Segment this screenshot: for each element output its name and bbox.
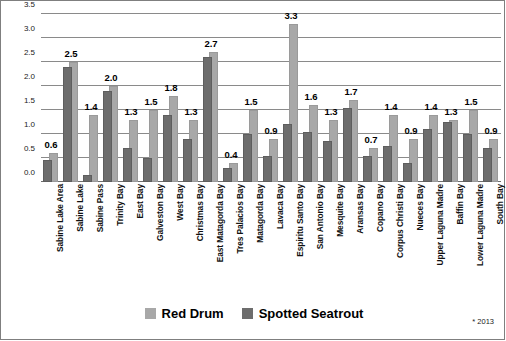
bar-value-label: 0.9 (257, 125, 285, 136)
bar-spotted-seatrout (363, 156, 372, 182)
x-axis-category-label: Corpus Christi Bay (395, 184, 405, 258)
legend-item-spotted-seatrout: Spotted Seatrout (242, 306, 364, 321)
bar-spotted-seatrout (423, 129, 432, 182)
bar-group: 0.6 (41, 14, 61, 182)
bar-group: 1.6 (301, 14, 321, 182)
x-axis-category-label: Baffin Bay (455, 184, 465, 224)
y-axis-tick-label: 2.0 (5, 72, 35, 81)
x-axis-category-label: Sabine Lake (75, 184, 85, 232)
bar-group: 1.5 (461, 14, 481, 182)
bar-spotted-seatrout (123, 148, 132, 182)
bar-value-label: 3.3 (277, 10, 305, 21)
x-axis-category-label: East Bay (135, 184, 145, 219)
x-axis-category-label: Lower Laguna Madre (475, 184, 485, 266)
bar-group: 2.5 (61, 14, 81, 182)
x-axis-category-label: Espiritu Santo Bay (295, 184, 305, 257)
y-axis-tick-label: 3.0 (5, 24, 35, 33)
bar-value-label: 1.3 (437, 106, 465, 117)
bar-spotted-seatrout (403, 163, 412, 182)
bar-groups: 0.62.51.42.01.31.51.81.32.70.41.50.93.31… (41, 14, 501, 182)
bar-group: 1.4 (81, 14, 101, 182)
bar-group: 2.0 (101, 14, 121, 182)
bar-group: 0.7 (361, 14, 381, 182)
bar-value-label: 0.6 (37, 139, 65, 150)
bar-value-label: 2.7 (197, 38, 225, 49)
y-axis-tick-label: 0.0 (5, 168, 35, 177)
bar-spotted-seatrout (383, 146, 392, 182)
bar-value-label: 1.4 (77, 101, 105, 112)
y-axis-tick-label: 1.0 (5, 120, 35, 129)
bar-red-drum (89, 115, 98, 182)
bar-spotted-seatrout (63, 67, 72, 182)
y-axis-tick-label: 3.5 (5, 0, 35, 9)
x-axis-category-label: Nueces Bay (415, 184, 425, 231)
bar-spotted-seatrout (83, 175, 92, 182)
bar-spotted-seatrout (263, 156, 272, 182)
bar-group: 1.4 (421, 14, 441, 182)
legend-item-red-drum: Red Drum (145, 306, 224, 321)
legend-swatch-spotted-seatrout (242, 308, 253, 319)
y-axis-tick-label: 1.5 (5, 96, 35, 105)
x-axis-category-label: San Antonio Bay (315, 184, 325, 249)
bar-spotted-seatrout (163, 115, 172, 182)
bar-spotted-seatrout (143, 158, 152, 182)
bar-value-label: 2.0 (97, 72, 125, 83)
bar-value-label: 0.7 (357, 134, 385, 145)
x-axis-category-label: Mesquite Bay (335, 184, 345, 237)
y-axis-tick-label: 2.5 (5, 48, 35, 57)
x-axis-category-label: Trinity Bay (115, 184, 125, 226)
x-axis-category-label: Aransas Bay (355, 184, 365, 234)
bar-spotted-seatrout (443, 122, 452, 182)
x-axis-category-labels: Sabine Lake AreaSabine LakeSabine PassTr… (41, 184, 501, 294)
legend-label-spotted-seatrout: Spotted Seatrout (259, 306, 364, 321)
y-axis-tick-label: 0.5 (5, 144, 35, 153)
x-axis-category-label: Copano Bay (375, 184, 385, 232)
x-axis-category-label: Sabine Lake Area (55, 184, 65, 252)
bar-spotted-seatrout (223, 168, 232, 182)
x-axis-category-label: Galveston Bay (155, 184, 165, 241)
bar-spotted-seatrout (183, 139, 192, 182)
bar-value-label: 1.5 (457, 96, 485, 107)
x-axis-category-label: Lavaca Bay (275, 184, 285, 229)
bar-value-label: 1.8 (157, 82, 185, 93)
bar-value-label: 1.5 (237, 96, 265, 107)
bar-spotted-seatrout (483, 148, 492, 182)
footnote-annotation: * 2013 (472, 317, 494, 326)
bar-value-label: 1.3 (177, 106, 205, 117)
x-axis-category-label: Sabine Pass (95, 184, 105, 232)
chart-legend: Red Drum Spotted Seatrout (1, 306, 506, 321)
bar-spotted-seatrout (463, 134, 472, 182)
x-axis-category-label: South Bay (495, 184, 505, 225)
chart-frame: 0.00.51.01.52.02.53.03.5 0.62.51.42.01.3… (0, 0, 505, 340)
bar-group: 1.4 (381, 14, 401, 182)
bar-value-label: 1.3 (117, 106, 145, 117)
bar-value-label: 1.5 (137, 96, 165, 107)
x-axis-category-label: East Matagorda Bay (215, 184, 225, 262)
bar-spotted-seatrout (343, 108, 352, 182)
bar-value-label: 0.9 (397, 125, 425, 136)
bar-value-label: 1.4 (377, 101, 405, 112)
x-axis-category-label: Tres Palacios Bay (235, 184, 245, 254)
bar-group: 1.7 (341, 14, 361, 182)
bar-group: 0.9 (401, 14, 421, 182)
legend-label-red-drum: Red Drum (162, 306, 224, 321)
plot-area: 0.00.51.01.52.02.53.03.5 0.62.51.42.01.3… (41, 14, 501, 182)
legend-swatch-red-drum (145, 308, 156, 319)
bar-value-label: 0.4 (217, 149, 245, 160)
x-axis-category-label: Upper Laguna Madre (435, 184, 445, 266)
bar-group: 1.5 (141, 14, 161, 182)
x-axis-category-label: Matagorda Bay (255, 184, 265, 243)
x-axis-category-label: Christmas Bay (195, 184, 205, 241)
bar-spotted-seatrout (203, 57, 212, 182)
bar-spotted-seatrout (303, 132, 312, 182)
bar-value-label: 1.6 (297, 91, 325, 102)
bar-value-label: 2.5 (57, 48, 85, 59)
bar-value-label: 0.9 (477, 125, 505, 136)
bar-value-label: 1.3 (317, 106, 345, 117)
bar-spotted-seatrout (323, 141, 332, 182)
bar-value-label: 1.7 (337, 86, 365, 97)
x-axis-category-label: West Bay (175, 184, 185, 221)
bar-spotted-seatrout (43, 160, 52, 182)
